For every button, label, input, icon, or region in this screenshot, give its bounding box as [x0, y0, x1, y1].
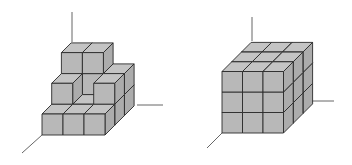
cube-front-face [263, 113, 284, 134]
cube-front-face [222, 113, 243, 134]
diagram-canvas [0, 0, 352, 165]
axis-diagonal-line [207, 133, 222, 148]
cube-front-face [263, 92, 284, 113]
three-by-three-cube-figure [207, 17, 334, 148]
cube-front-face [94, 83, 115, 104]
stepped-cube-stack-figure [22, 12, 163, 153]
unit-cube [94, 74, 125, 105]
cube-figures-svg [0, 0, 352, 165]
cube-front-face [243, 113, 264, 134]
cube-front-face [63, 114, 84, 135]
cube-front-face [243, 72, 264, 93]
cube-front-face [263, 72, 284, 93]
cube-front-face [61, 53, 82, 74]
cube-front-face [82, 53, 103, 74]
axis-diagonal-line [22, 135, 42, 153]
cube-front-face [42, 114, 63, 135]
cube-front-face [243, 92, 264, 113]
cube-front-face [222, 92, 243, 113]
cube-front-face [222, 72, 243, 93]
unit-cube [84, 104, 115, 135]
cube-front-face [52, 83, 73, 104]
cube-front-face [84, 114, 105, 135]
